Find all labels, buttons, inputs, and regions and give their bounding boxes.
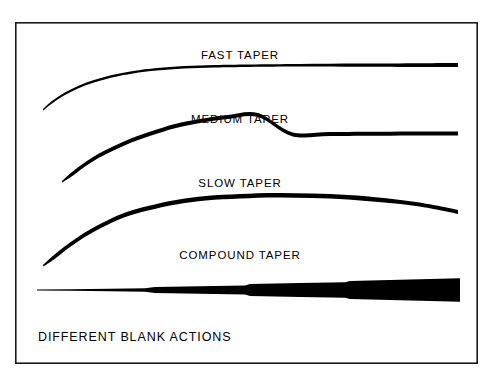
figure-root: FAST TAPER MEDIUM TAPER SLOW TAPER COMPO… [0, 0, 494, 378]
figure-border [16, 23, 477, 363]
figure-caption: DIFFERENT BLANK ACTIONS [38, 330, 231, 344]
label-medium-taper: MEDIUM TAPER [191, 113, 289, 125]
label-compound-taper: COMPOUND TAPER [179, 249, 300, 261]
rod-profile-fast-taper [43, 63, 458, 111]
blank-actions-diagram: FAST TAPER MEDIUM TAPER SLOW TAPER COMPO… [0, 0, 494, 378]
label-slow-taper: SLOW TAPER [198, 177, 281, 189]
label-fast-taper: FAST TAPER [201, 49, 279, 61]
